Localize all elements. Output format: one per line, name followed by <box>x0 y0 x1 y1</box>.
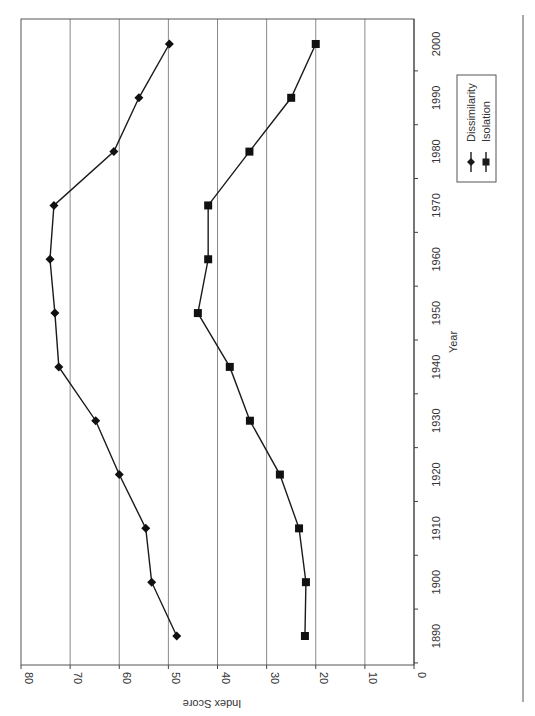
value-tick-label: 60 <box>121 672 133 684</box>
square-marker-icon <box>301 632 309 640</box>
square-marker-icon <box>302 578 310 586</box>
diamond-marker-icon <box>45 255 54 264</box>
square-marker-icon <box>287 94 295 102</box>
series-dissimilarity <box>45 39 181 640</box>
year-tick-label: 1920 <box>430 462 442 486</box>
year-axis: 1890190019101920193019401950196019701980… <box>414 19 442 665</box>
square-marker-icon <box>295 524 303 532</box>
year-axis-title: Year <box>447 331 459 354</box>
chart: 1890190019101920193019401950196019701980… <box>0 0 535 716</box>
square-marker-icon <box>204 255 212 263</box>
diamond-marker-icon <box>134 93 143 102</box>
value-tick-label: 40 <box>220 672 232 684</box>
index-score-axis: 01020304050607080 <box>21 665 428 684</box>
year-tick-label: 1900 <box>430 570 442 594</box>
year-tick-label: 2000 <box>430 32 442 56</box>
year-tick-label: 1930 <box>430 408 442 432</box>
series-isolation <box>194 40 320 640</box>
value-tick-label: 80 <box>23 672 35 684</box>
square-marker-icon <box>312 40 320 48</box>
year-tick-label: 1990 <box>430 86 442 110</box>
value-tick-label: 50 <box>170 672 182 684</box>
value-tick-label: 20 <box>318 672 330 684</box>
diamond-marker-icon <box>147 578 156 587</box>
square-marker-icon <box>483 159 490 166</box>
legend-label-isolation: Isolation <box>480 101 492 142</box>
index-score-axis-title: Index Score <box>183 698 242 710</box>
year-tick-label: 1890 <box>430 624 442 648</box>
diamond-marker-icon <box>50 309 59 318</box>
square-marker-icon <box>276 471 284 479</box>
year-tick-label: 1970 <box>430 193 442 217</box>
year-tick-label: 1980 <box>430 139 442 163</box>
value-tick-label: 70 <box>72 672 84 684</box>
value-tick-label: 10 <box>367 672 379 684</box>
diamond-marker-icon <box>54 362 63 371</box>
diamond-marker-icon <box>91 416 100 425</box>
square-marker-icon <box>245 148 253 156</box>
year-tick-label: 1910 <box>430 516 442 540</box>
diamond-marker-icon <box>115 470 124 479</box>
legend-label-dissimilarity: Dissimilarity <box>465 83 477 142</box>
diamond-marker-icon <box>172 632 181 641</box>
series <box>45 39 319 640</box>
series-line <box>198 44 316 636</box>
square-marker-icon <box>194 309 202 317</box>
year-tick-label: 1960 <box>430 247 442 271</box>
square-marker-icon <box>226 363 234 371</box>
square-marker-icon <box>204 201 212 209</box>
series-line <box>50 44 177 636</box>
value-tick-label: 30 <box>269 672 281 684</box>
diamond-marker-icon <box>141 524 150 533</box>
square-marker-icon <box>246 417 254 425</box>
year-tick-label: 1950 <box>430 301 442 325</box>
diamond-marker-icon <box>165 39 174 48</box>
gridlines <box>70 19 365 665</box>
value-tick-label: 0 <box>416 672 428 678</box>
year-tick-label: 1940 <box>430 355 442 379</box>
legend: Dissimilarity Isolation <box>457 75 496 182</box>
